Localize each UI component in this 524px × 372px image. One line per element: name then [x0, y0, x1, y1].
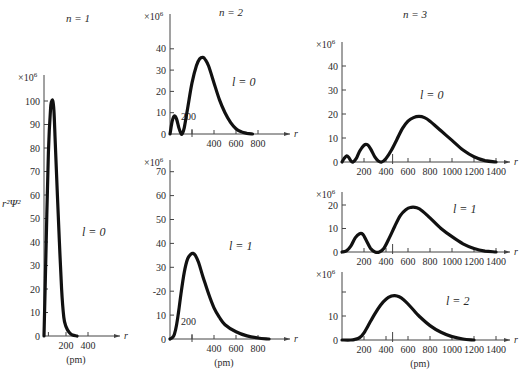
panel-n3-l1: r×10601020200400600800100012001400l = 1: [316, 188, 518, 267]
x-tick-label: 600: [401, 256, 416, 267]
x-tick-label: 400: [379, 344, 394, 355]
x-tick-label: 800: [251, 343, 266, 354]
x-tick-label: 400: [81, 340, 96, 351]
x-tick-label: 600: [229, 138, 244, 149]
y-tick-label: 20: [328, 109, 338, 120]
x-tick-label: 800: [423, 256, 438, 267]
y-tick-label: 80: [30, 143, 40, 154]
orbital-l-label: l = 0: [420, 88, 443, 102]
column-title-n3: n = 3: [403, 8, 427, 20]
x-axis-var: r: [294, 128, 298, 139]
y-multiplier-label: ×106: [18, 71, 38, 83]
x-tick-label: 600: [401, 166, 416, 177]
orbital-l-label: l = 0: [82, 225, 105, 239]
x-tick-label: 1400: [486, 344, 506, 355]
panel-n2-l1: r×106010-203040506070400600800200(pm)l =…: [144, 156, 298, 369]
x-tick-label: 1200: [464, 256, 484, 267]
x-tick-label: 1200: [464, 344, 484, 355]
distribution-curve: [342, 116, 496, 162]
y-tick-label: 10: [328, 311, 338, 322]
y-tick-label: 10: [328, 133, 338, 144]
y-tick-label: 60: [156, 190, 166, 201]
x-tick-label: 1400: [486, 256, 506, 267]
x-tick-label: 600: [229, 343, 244, 354]
x-unit-label: (pm): [410, 358, 429, 370]
x-axis-var: r: [124, 330, 128, 341]
y-tick-label: 0: [161, 129, 166, 140]
y-multiplier-label: ×106: [316, 188, 336, 200]
x-tick-label: 1200: [464, 166, 484, 177]
x-tick-label: 400: [379, 256, 394, 267]
x-tick-label-200: 200: [181, 316, 196, 327]
column-title-n1: n = 1: [66, 12, 90, 24]
x-axis-arrow-icon: [504, 338, 510, 342]
y-tick-label: 40: [30, 237, 40, 248]
x-axis-var: r: [514, 156, 518, 167]
x-tick-label: 200: [357, 166, 372, 177]
x-tick-label: 1000: [442, 166, 462, 177]
x-axis-arrow-icon: [284, 337, 290, 341]
panel-n3-l0: r×106010203040200400600800100012001400l …: [316, 38, 518, 177]
y-tick-label: -20: [153, 286, 166, 297]
x-axis-arrow-icon: [504, 160, 510, 164]
x-tick-label: 200: [357, 256, 372, 267]
y-axis-label: r²Ψ²: [2, 197, 21, 209]
x-tick-label: 600: [401, 344, 416, 355]
y-tick-label: 0: [333, 247, 338, 258]
x-axis-var: r: [514, 334, 518, 345]
y-tick-label: 60: [30, 190, 40, 201]
y-tick-label: 70: [30, 166, 40, 177]
y-tick-label: 40: [156, 43, 166, 54]
x-tick-label: 1000: [442, 256, 462, 267]
distribution-curve: [44, 100, 77, 336]
y-tick-label: 30: [30, 260, 40, 271]
x-tick-label: 200: [357, 344, 372, 355]
x-unit-label: (pm): [214, 357, 233, 369]
y-tick-label: 100: [25, 96, 40, 107]
y-multiplier-label: ×106: [144, 10, 164, 22]
y-tick-label: 10: [30, 307, 40, 318]
y-multiplier-label: ×106: [316, 268, 336, 280]
y-tick-label: 40: [156, 238, 166, 249]
y-tick-label: 50: [30, 213, 40, 224]
x-tick-label: 1000: [442, 344, 462, 355]
y-tick-label: 20: [30, 284, 40, 295]
panel-n3-l2: r×106010200400600800100012001400(pm)l = …: [316, 268, 518, 370]
y-tick-label: 10: [156, 310, 166, 321]
x-tick-label: 400: [207, 343, 222, 354]
panel-n1-l0: r×1060102030405060708090100200400(pm)l =…: [18, 71, 128, 366]
y-tick-label: 90: [30, 119, 40, 130]
x-axis-arrow-icon: [504, 250, 510, 254]
x-axis-arrow-icon: [284, 132, 290, 136]
y-tick-label: 0: [333, 157, 338, 168]
y-tick-label: 10: [328, 223, 338, 234]
orbital-l-label: l = 1: [229, 239, 252, 253]
y-tick-label: 70: [156, 166, 166, 177]
y-tick-label: 30: [156, 262, 166, 273]
y-tick-label: 40: [328, 61, 338, 72]
y-tick-label: 30: [328, 85, 338, 96]
x-axis-arrow-icon: [114, 334, 120, 338]
column-title-n2: n = 2: [219, 6, 243, 18]
y-tick-label: 0: [161, 334, 166, 345]
y-tick-label: 0: [35, 331, 40, 342]
panel-n2-l0: r×106010203040400600800200l = 0: [144, 10, 298, 149]
x-tick-label: 400: [379, 166, 394, 177]
x-tick-label: 400: [207, 138, 222, 149]
x-axis-var: r: [514, 246, 518, 257]
x-tick-label: 800: [423, 166, 438, 177]
orbital-l-label: l = 2: [446, 294, 469, 308]
x-unit-label: (pm): [66, 354, 85, 366]
x-axis-var: r: [294, 333, 298, 344]
y-tick-label: 20: [156, 86, 166, 97]
y-tick-label: 10: [156, 107, 166, 118]
y-multiplier-label: ×106: [316, 38, 336, 50]
panels-group: r×1060102030405060708090100200400(pm)l =…: [18, 10, 518, 370]
y-tick-label: 0: [333, 335, 338, 346]
orbital-l-label: l = 0: [232, 75, 255, 89]
orbital-l-label: l = 1: [453, 202, 476, 216]
y-tick-label: 20: [328, 200, 338, 211]
distribution-curve: [170, 57, 253, 134]
y-tick-label: 30: [156, 65, 166, 76]
x-tick-label: 1400: [486, 166, 506, 177]
